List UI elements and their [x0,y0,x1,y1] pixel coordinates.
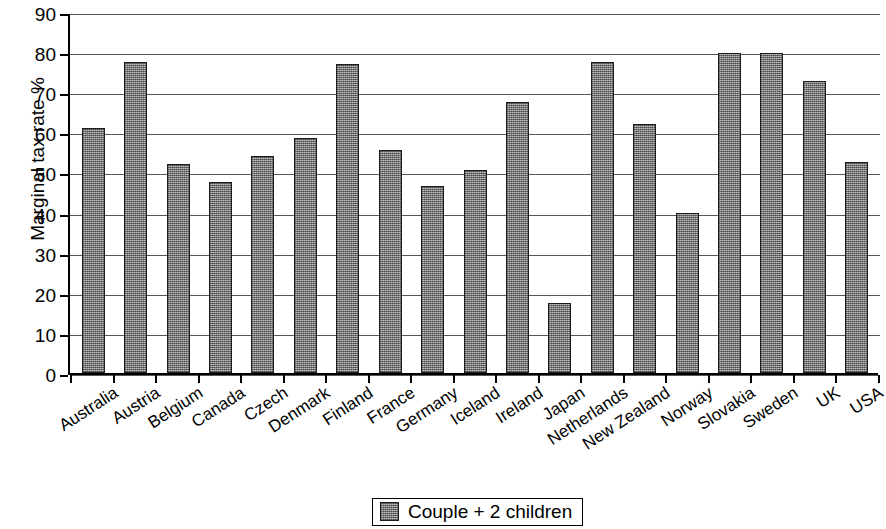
y-tick-label-90: 90 [8,5,56,24]
y-tick-mark-30 [60,255,68,257]
y-tick-label-60: 60 [8,125,56,144]
bar-japan[interactable] [548,303,571,373]
bar-slot [242,14,284,373]
x-tick-mark [325,375,327,383]
bar-slot [157,14,199,373]
x-tick-mark [453,375,455,383]
bar-france[interactable] [379,150,402,373]
bar-slot [199,14,241,373]
y-tick-label-10: 10 [8,326,56,345]
x-tick-mark [240,375,242,383]
x-label-uk: UK [814,383,845,413]
y-tick-label-30: 30 [8,246,56,265]
bar-czech[interactable] [251,156,274,373]
bar-slot [666,14,708,373]
couple-2-children-swatch [380,502,399,521]
x-axis-tick-labels: AustraliaAustriaBelgiumCanadaCzechDenmar… [68,383,878,478]
x-tick-mark [70,375,72,383]
bar-new-zealand[interactable] [633,124,656,373]
bar-slot [708,14,750,373]
bar-slot [751,14,793,373]
y-tick-mark-80 [60,54,68,56]
y-tick-mark-50 [60,174,68,176]
y-tick-mark-0 [60,375,68,377]
bar-slot [327,14,369,373]
y-tick-mark-20 [60,295,68,297]
x-label-ireland: Ireland [492,383,546,428]
x-tick-mark [665,375,667,383]
bar-slot [284,14,326,373]
x-tick-mark [580,375,582,383]
bar-belgium[interactable] [167,164,190,373]
x-tick-mark [835,375,837,383]
x-tick-mark [495,375,497,383]
bar-slot [539,14,581,373]
x-tick-mark [623,375,625,383]
x-tick-mark [708,375,710,383]
bar-iceland[interactable] [464,170,487,373]
bar-denmark[interactable] [294,138,317,373]
x-tick-mark [750,375,752,383]
x-tick-mark [878,375,880,383]
bar-slot [496,14,538,373]
bar-netherlands[interactable] [591,62,614,373]
bar-ireland[interactable] [506,102,529,373]
bar-sweden[interactable] [760,53,783,373]
y-tick-mark-10 [60,335,68,337]
bar-slot [72,14,114,373]
x-tick-mark [283,375,285,383]
y-tick-mark-70 [60,94,68,96]
x-tick-mark [113,375,115,383]
y-tick-label-40: 40 [8,206,56,225]
y-tick-label-0: 0 [8,366,56,385]
x-tick-mark [155,375,157,383]
bar-australia[interactable] [82,128,105,373]
x-label-usa: USA [847,383,886,419]
bar-series-couple-2-children [72,14,878,373]
bar-canada[interactable] [209,182,232,373]
x-tick-mark [538,375,540,383]
bar-slot [411,14,453,373]
bar-uk[interactable] [803,81,826,373]
x-tick-mark [368,375,370,383]
x-axis-tick-marks [68,375,878,383]
y-tick-mark-60 [60,134,68,136]
x-tick-mark [793,375,795,383]
bar-slovakia[interactable] [718,53,741,373]
y-tick-label-70: 70 [8,85,56,104]
y-tick-mark-40 [60,215,68,217]
x-tick-mark [410,375,412,383]
bar-slot [623,14,665,373]
bar-germany[interactable] [421,186,444,373]
y-tick-label-80: 80 [8,45,56,64]
x-tick-mark [198,375,200,383]
bar-slot [793,14,835,373]
bar-austria[interactable] [124,62,147,373]
bar-slot [369,14,411,373]
bar-slot [454,14,496,373]
plot-area [68,14,878,375]
bar-slot [836,14,878,373]
legend-label: Couple + 2 children [408,502,572,521]
y-tick-label-20: 20 [8,286,56,305]
bar-norway[interactable] [676,213,699,373]
bar-slot [114,14,156,373]
legend: Couple + 2 children [372,498,583,526]
bar-usa[interactable] [845,162,868,373]
y-tick-mark-90 [60,14,68,16]
bar-chart: Marginal tax rate % 0102030405060708090 … [0,0,886,529]
y-tick-label-50: 50 [8,165,56,184]
bar-slot [581,14,623,373]
bar-finland[interactable] [336,64,359,373]
